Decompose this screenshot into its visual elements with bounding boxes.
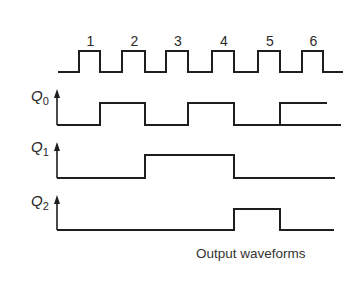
clock-waveform bbox=[58, 51, 343, 72]
q0-axis-arrow-icon bbox=[54, 89, 60, 98]
q2-label: Q2 bbox=[31, 192, 49, 212]
q2-group: Q2 bbox=[31, 192, 334, 230]
clock-pulse-labels: 123456 bbox=[87, 33, 318, 49]
q1-group: Q1 bbox=[31, 138, 335, 178]
clock-pulse-label: 1 bbox=[87, 33, 95, 49]
q1-waveform bbox=[57, 155, 335, 178]
q0-group: Q0 bbox=[31, 87, 341, 125]
q2-waveform bbox=[57, 209, 334, 230]
clock-pulse-label: 6 bbox=[310, 33, 318, 49]
clock-pulse-label: 4 bbox=[220, 33, 228, 49]
clock-waveform-group: 123456 bbox=[58, 33, 343, 72]
q1-label: Q1 bbox=[31, 138, 49, 158]
clock-pulse-label: 5 bbox=[266, 33, 274, 49]
diagram-caption: Output waveforms bbox=[196, 246, 306, 261]
q0-label: Q0 bbox=[31, 87, 49, 107]
timing-diagram: 123456 Q0 Q1 Q2 Output waveforms bbox=[0, 0, 357, 299]
clock-pulse-label: 2 bbox=[131, 33, 139, 49]
q2-axis-arrow-icon bbox=[54, 195, 60, 204]
q1-axis-arrow-icon bbox=[54, 142, 60, 151]
q0-waveform bbox=[57, 103, 341, 125]
clock-pulse-label: 3 bbox=[174, 33, 182, 49]
